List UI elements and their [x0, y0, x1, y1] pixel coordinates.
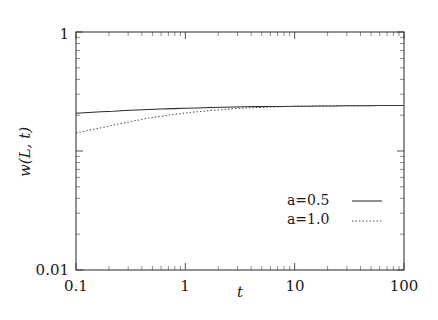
y-axis-title: w(L, t) — [16, 127, 34, 177]
x-axis-tick-label-0: 0.1 — [64, 277, 88, 295]
x-axis-tick-label-1: 1 — [180, 277, 190, 295]
legend-label-a-1-0: a=1.0 — [287, 211, 329, 227]
log-log-plot: 1 0.01 0.1 1 10 100 t w(L, t) a=0.5 a=1.… — [0, 0, 438, 320]
x-axis-tick-label-2: 10 — [285, 277, 304, 295]
x-axis-tick-label-3: 100 — [390, 277, 419, 295]
y-axis-tick-label-top: 1 — [59, 25, 69, 43]
x-axis-title: t — [237, 283, 244, 301]
legend-label-a-0-5: a=0.5 — [287, 192, 329, 208]
